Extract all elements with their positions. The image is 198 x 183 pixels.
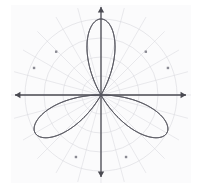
curve-marker	[75, 156, 77, 158]
curve-marker	[33, 67, 35, 69]
curve-marker	[125, 156, 127, 158]
plot-canvas	[0, 0, 198, 183]
curve-marker	[55, 51, 57, 53]
curve-marker	[167, 67, 169, 69]
polar-rose-plot	[0, 0, 198, 183]
curve-marker	[145, 51, 147, 53]
